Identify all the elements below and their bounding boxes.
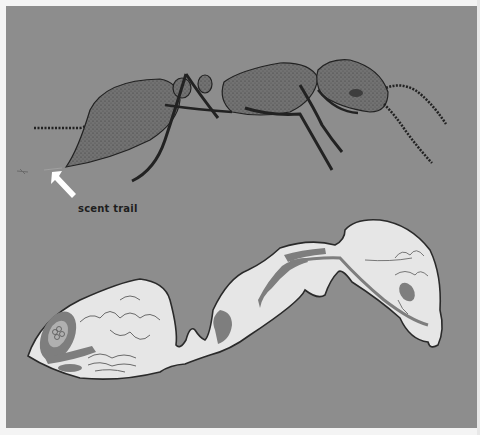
ant-anatomy-section: [28, 220, 442, 379]
ant-side-view: [34, 60, 446, 181]
white-arrow-icon: [51, 171, 76, 198]
ant-illustration: [0, 0, 480, 435]
scent-trail-label: scent trail: [78, 203, 138, 214]
